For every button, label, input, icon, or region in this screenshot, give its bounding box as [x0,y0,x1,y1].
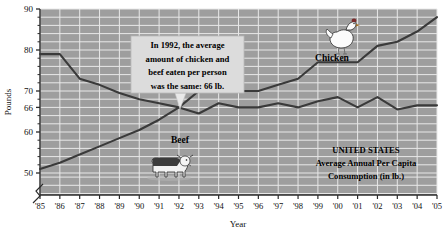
y-axis-ticks: 908070666050 [24,4,40,178]
x-tick-label: '03 [392,201,402,211]
x-tick-label: '87 [75,201,85,211]
x-tick-label: '04 [412,201,423,211]
callout-line: amount of chicken and [146,54,230,64]
x-tick-label: '00 [333,201,343,211]
x-tick-label: '93 [194,201,204,211]
x-tick-label: '85 [35,201,45,211]
cow-icon [147,155,193,181]
x-tick-label: '99 [313,201,323,211]
caption-line: Average Annual Per Capita [316,158,417,168]
y-axis-title: Pounds [3,88,13,115]
x-tick-label: '94 [214,201,225,211]
y-tick-label: 70 [24,86,34,96]
callout-line: beef eaten per person [148,67,227,77]
x-axis-ticks: '85'86'87'88'89'90'91'92'93'94'95'96'97'… [35,195,442,211]
chart-svg: 908070666050 '85'86'87'88'89'90'91'92'93… [0,0,447,231]
series-label-chicken: Chicken [315,53,350,63]
caption-line: Consumption (in lb.) [328,171,404,181]
x-tick-label: '90 [134,201,144,211]
callout-line: In 1992, the average [151,40,225,50]
y-tick-label: 90 [24,4,34,14]
x-tick-label: '01 [353,201,363,211]
chart-figure: 908070666050 '85'86'87'88'89'90'91'92'93… [0,0,447,231]
caption-line: UNITED STATES [332,145,399,155]
y-tick-label: 66 [24,103,34,113]
x-axis-title: Year [230,219,247,229]
x-tick-label: '92 [174,201,184,211]
series-label-beef: Beef [171,135,190,145]
y-tick-label: 50 [24,168,34,178]
x-tick-label: '95 [233,201,243,211]
x-tick-label: '98 [293,201,303,211]
x-tick-label: '88 [95,201,105,211]
x-tick-label: '86 [55,201,65,211]
x-tick-label: '96 [253,201,263,211]
y-tick-label: 80 [24,45,34,55]
x-tick-label: '89 [114,201,124,211]
callout-line: was the same: 66 lb. [151,81,224,91]
x-tick-label: '91 [154,201,164,211]
x-tick-label: '97 [273,201,283,211]
x-tick-label: '05 [432,201,442,211]
x-tick-label: '02 [372,201,382,211]
y-tick-label: 60 [24,127,34,137]
